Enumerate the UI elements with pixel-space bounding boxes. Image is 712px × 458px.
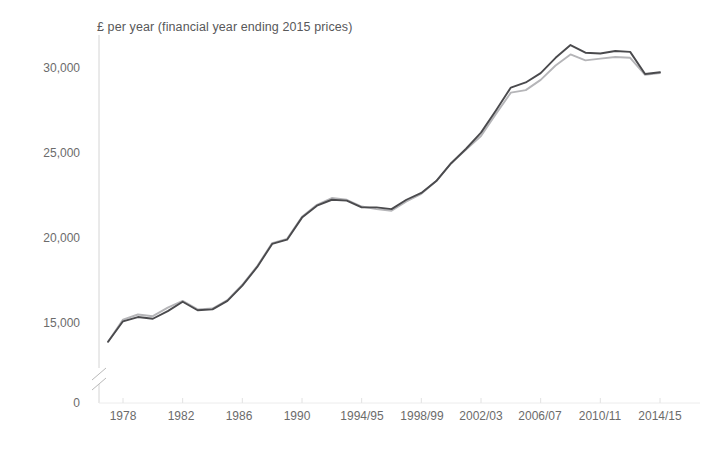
chart-plot-area bbox=[0, 0, 712, 458]
series-line-light bbox=[108, 54, 660, 341]
series-line-dark bbox=[108, 45, 660, 342]
x-axis-ticks bbox=[123, 398, 660, 403]
chart-container: £ per year (financial year ending 2015 p… bbox=[0, 0, 712, 458]
